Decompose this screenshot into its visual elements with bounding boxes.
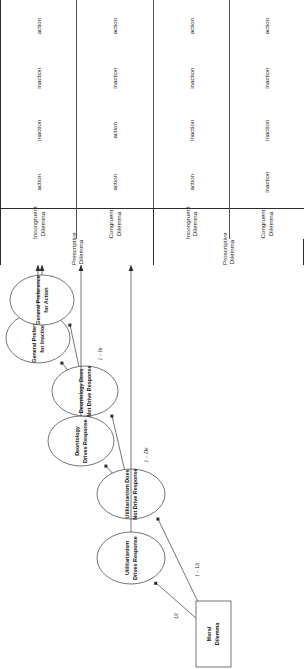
node-moral-dilemma-line1: Moral [206,626,212,641]
cell-proscriptive-congruent-ut-drives: inaction [229,156,303,208]
table-row: Proscriptive Dilemma Incongruent Dilemma… [153,0,229,265]
cell-proscriptive-congruent-deo-drives: inaction [229,104,303,156]
node-moral-dilemma[interactable]: Moral Dilemma [196,601,231,667]
subcolumn-header-line2: Dilemma [39,209,47,239]
figure-rotator: Ut 1 – Ut De 1 – De In 1 – In Moral Dile… [0,0,304,669]
subcolumn-header-prescriptive-congruent: Congruent Dilemma [77,209,153,240]
table-row: Congruent Dilemma inaction inaction inac… [229,0,303,265]
subcolumn-header-proscriptive-congruent: Congruent Dilemma [229,209,303,240]
node-deo-not-line2: Not Drive Response [86,365,92,416]
connector-arrow-4 [40,265,45,271]
param-label-one-minus-Ut: 1 – Ut [194,563,200,577]
outcome-table-grid: Prescriptive Dilemma Incongruent Dilemma… [0,0,304,265]
subcolumn-header-line2: Dilemma [191,209,199,239]
node-deo-drives-line1: Deontology [74,426,80,456]
param-label-one-minus-De: 1 – De [143,447,149,462]
cell-proscriptive-congruent-pref-inaction: inaction [229,52,303,104]
arrowhead-ut-not [156,518,159,521]
arrowhead-pref-inaction [60,362,63,365]
arrowhead-ut-drives [154,582,157,585]
connector-arrow-3 [36,265,41,271]
subcolumn-header-line2: Dilemma [267,209,275,239]
node-deo-drives-line2: Drives Response [82,419,88,463]
node-pref-inaction-line2: for Inaction [39,323,45,352]
cell-proscriptive-incongruent-pref-action: action [153,0,229,52]
outcome-table: Prescriptive Dilemma Incongruent Dilemma… [0,0,304,265]
tree-diagram: Ut 1 – Ut De 1 – De In 1 – In Moral Dile… [0,265,304,669]
node-moral-dilemma-line2: Dilemma [214,622,220,645]
cell-prescriptive-congruent-pref-inaction: inaction [77,52,153,104]
subcolumn-header-line1: Congruent [259,209,267,239]
arrowhead-deo-not [110,415,113,418]
subcolumn-header-proscriptive-incongruent: Incongruent Dilemma [153,209,229,240]
node-ut-drives-line2: Drives Response [132,536,138,580]
cell-prescriptive-incongruent-pref-action: action [1,0,77,52]
subcolumn-header-prescriptive-incongruent: Incongruent Dilemma [1,209,77,240]
cell-prescriptive-congruent-pref-action: action [77,0,153,52]
arrowhead-pref-action [68,324,71,327]
cell-prescriptive-incongruent-ut-drives: action [1,156,77,208]
subcolumn-header-line2: Dilemma [115,209,123,239]
cell-prescriptive-incongruent-deo-drives: inaction [1,104,77,156]
node-general-preference-for-action[interactable]: General Preference for Action [10,275,74,325]
table-row: Prescriptive Dilemma Incongruent Dilemma… [1,0,77,265]
node-utilitarianism-drives-response[interactable]: Utilitarianism Drives Response [97,532,165,584]
connector-arrow-1 [129,265,134,271]
subcolumn-header-line1: Incongruent [184,209,192,239]
node-ut-not-line2: Not Drive Response [132,468,138,519]
node-ut-not-line1: Utilitarianism Does [124,470,130,519]
cell-prescriptive-congruent-ut-drives: action [77,156,153,208]
column-group-header-proscriptive: Proscriptive Dilemma [153,239,303,265]
cell-prescriptive-incongruent-pref-inaction: inaction [1,52,77,104]
node-pref-action-line2: for Action [43,287,49,312]
connector-arrow-2 [79,265,84,271]
cell-proscriptive-congruent-pref-action: action [229,0,303,52]
subcolumn-header-line1: Congruent [107,209,115,239]
cell-proscriptive-incongruent-deo-drives: inaction [153,104,229,156]
table-row: Congruent Dilemma action action inaction… [77,0,153,265]
cell-proscriptive-incongruent-ut-drives: action [153,156,229,208]
node-deontology-does-not-drive-response[interactable]: Deontology Does Not Drive Response [52,365,118,416]
node-deontology-drives-response[interactable]: Deontology Drives Response [48,416,114,466]
node-ut-drives-line1: Utilitarianism [124,541,130,575]
cell-proscriptive-incongruent-pref-inaction: inaction [153,52,229,104]
subcolumn-header-line1: Incongruent [31,209,39,239]
cell-prescriptive-congruent-deo-drives: action [77,104,153,156]
processing-tree-figure: Ut 1 – Ut De 1 – De In 1 – In Moral Dile… [0,0,304,669]
arrowhead-deo-drives [104,465,107,468]
param-label-one-minus-In: 1 – In [97,347,103,360]
column-group-header-prescriptive: Prescriptive Dilemma [1,239,154,265]
param-label-Ut: Ut [173,613,179,619]
